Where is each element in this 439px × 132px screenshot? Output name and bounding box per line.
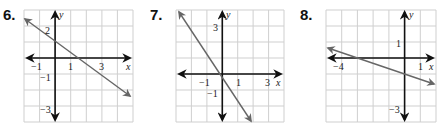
x-tick-7-neg1: −1	[199, 77, 210, 88]
y-tick-8-1: 1	[396, 38, 401, 49]
y-tick-6-neg1: −1	[40, 72, 51, 83]
y-tick-7-neg1: −1	[207, 88, 218, 99]
x-axis-label-7: x	[275, 77, 281, 88]
x-tick-8-1: 1	[418, 61, 423, 72]
grid-7	[176, 10, 284, 122]
x-tick-8-neg4: −4	[333, 61, 344, 72]
x-tick-7-3: 3	[265, 77, 270, 88]
y-axis-label-7: y	[225, 9, 231, 20]
x-axis-label-6: x	[125, 61, 131, 72]
y-tick-7-3: 3	[213, 22, 218, 33]
y-axis-label-6: y	[58, 9, 64, 20]
graph-8: y 1 −3 −4 1 x	[326, 9, 436, 122]
y-tick-8-neg3: −3	[389, 104, 400, 115]
graph-6: y 2 −1 −3 −1 1 3 x	[24, 9, 133, 122]
graphs-canvas: y 2 −1 −3 −1 1 3 x y 3 −1 −1 1 3 x	[0, 0, 439, 132]
graph-7: y 3 −1 −1 1 3 x	[176, 9, 284, 122]
x-tick-7-1: 1	[236, 77, 241, 88]
y-tick-6-neg3: −3	[40, 104, 51, 115]
x-tick-6-1: 1	[68, 61, 73, 72]
x-tick-6-3: 3	[99, 61, 104, 72]
y-axis-label-8: y	[408, 9, 414, 20]
y-tick-6-2: 2	[45, 25, 50, 36]
x-tick-6-neg1: −1	[31, 61, 42, 72]
x-axis-label-8: x	[428, 61, 434, 72]
